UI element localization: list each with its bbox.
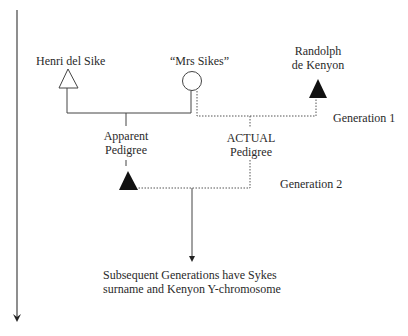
randolph-label: Randolph de Kenyon	[288, 44, 348, 72]
actual-pedigree-label: ACTUAL Pedigree	[221, 131, 281, 159]
generation-2-label: Generation 2	[280, 177, 342, 191]
henri-label: Henri del Sike	[36, 54, 105, 68]
apparent-label-line1: Apparent	[96, 129, 156, 143]
apparent-label-line2: Pedigree	[96, 143, 156, 157]
actual-label-line1: ACTUAL	[221, 131, 281, 145]
time-axis-arrow	[13, 10, 21, 322]
descent-arrow	[189, 188, 195, 262]
randolph-label-line2: de Kenyon	[288, 58, 348, 72]
footer-line2: surname and Kenyon Y-chromosome	[103, 282, 281, 296]
mrs-sikes-label: “Mrs Sikes”	[170, 54, 229, 68]
henri-open-triangle-icon	[59, 69, 78, 88]
actual-label-line2: Pedigree	[221, 145, 281, 159]
footer-caption: Subsequent Generations have Sykes surnam…	[103, 268, 281, 296]
generation2-filled-triangle-icon	[119, 171, 138, 190]
footer-line1: Subsequent Generations have Sykes	[103, 268, 281, 282]
apparent-pedigree-label: Apparent Pedigree	[96, 129, 156, 157]
randolph-filled-triangle-icon	[309, 79, 327, 98]
randolph-label-line1: Randolph	[288, 44, 348, 58]
mrs-sikes-open-circle-icon	[183, 72, 202, 91]
generation-1-label: Generation 1	[333, 111, 395, 125]
